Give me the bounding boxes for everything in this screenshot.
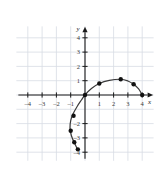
- data-point-marker: [140, 93, 144, 97]
- data-point-marker: [83, 93, 87, 97]
- data-point-marker: [71, 114, 75, 118]
- data-point-marker: [131, 82, 135, 86]
- data-point-marker: [76, 147, 80, 151]
- coordinate-plane-plot: –4–3–2–112344321–2–3–4 yx: [0, 0, 168, 178]
- y-tick-label: 3: [77, 48, 80, 55]
- x-tick-label: –2: [52, 100, 60, 107]
- x-tick-label: 2: [112, 100, 115, 107]
- data-point-marker: [72, 140, 76, 144]
- data-point-marker: [69, 129, 73, 133]
- y-tick-label: 2: [77, 63, 80, 70]
- y-tick-label: –2: [73, 120, 81, 127]
- x-tick-label: –4: [24, 100, 32, 107]
- x-tick-label: –1: [66, 100, 74, 107]
- plot-background: [0, 0, 168, 178]
- y-tick-label: 1: [77, 77, 80, 84]
- data-point-marker: [97, 81, 101, 85]
- graph-figure: –4–3–2–112344321–2–3–4 yx: [0, 0, 168, 178]
- x-tick-label: 1: [98, 100, 101, 107]
- x-tick-label: 3: [126, 100, 129, 107]
- data-point-marker: [119, 77, 123, 81]
- x-tick-label: –3: [38, 100, 46, 107]
